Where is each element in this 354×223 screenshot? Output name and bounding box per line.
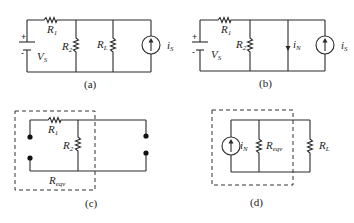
label-r2: R2 [62, 139, 74, 153]
caption-d: (d) [250, 196, 263, 209]
caption-a: (a) [84, 78, 97, 91]
circuit-diagram-svg: + - R1 R2 RL VS iS (a) + - R1 R2 iN VS i… [0, 0, 354, 223]
label-reqv: Reqv [265, 139, 283, 153]
label-rl: RL [318, 139, 330, 153]
plus-sign: + [192, 32, 197, 42]
r2-resistor [76, 120, 81, 171]
panel-c: R1 R2 Reqv (c) [15, 111, 149, 210]
r2-resistor [74, 20, 79, 72]
label-reqv: Reqv [48, 174, 66, 188]
label-in: iN [293, 38, 301, 52]
plus-sign: + [21, 32, 26, 42]
terminal-dot [27, 155, 32, 160]
panel-b: + - R1 R2 iN VS iS (b) [192, 18, 348, 91]
minus-sign: - [192, 47, 195, 57]
caption-c: (c) [85, 197, 98, 210]
label-r1: R1 [220, 23, 231, 37]
reqv-resistor [257, 120, 262, 172]
label-r2: R2 [235, 38, 247, 52]
r1-resistor [27, 18, 151, 23]
caption-b: (b) [259, 77, 272, 90]
label-r2: R2 [61, 40, 73, 54]
panel-a: + - R1 R2 RL VS iS (a) [19, 18, 174, 92]
arrowhead-up-icon [149, 38, 154, 43]
label-rl: RL [96, 38, 108, 52]
arrowhead-up-icon [229, 139, 234, 144]
panel-d: iN Reqv RL (d) [212, 110, 330, 209]
label-r1: R1 [47, 123, 58, 137]
arrowhead-up-icon [323, 38, 328, 43]
r1-resistor [200, 18, 325, 23]
label-is: iS [341, 39, 348, 53]
circuit-figure: + - R1 R2 RL VS iS (a) + - R1 R2 iN VS i… [0, 0, 354, 223]
rl-resistor [308, 120, 313, 172]
terminal-dot [27, 134, 32, 139]
label-r1: R1 [46, 23, 57, 37]
terminal-dot [143, 150, 148, 155]
terminal-dot [143, 133, 148, 138]
minus-sign: - [21, 48, 24, 58]
r1-resistor [30, 118, 146, 123]
rl-resistor [111, 20, 116, 72]
r2-resistor [248, 20, 253, 71]
arrow-down-icon [286, 46, 291, 51]
label-is: iS [167, 39, 174, 53]
label-in: iN [240, 139, 248, 153]
label-vs: VS [211, 48, 222, 62]
label-vs: VS [37, 50, 48, 64]
